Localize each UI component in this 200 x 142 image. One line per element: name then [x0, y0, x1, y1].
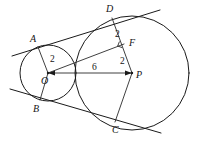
- point-label-o: O: [41, 76, 48, 86]
- vertex-dot-o: [47, 72, 49, 74]
- segment-oa: [38, 47, 48, 73]
- geometry-figure: A B C D F O P 2 2 2 6: [0, 0, 200, 142]
- point-label-p: P: [136, 70, 142, 80]
- point-label-a: A: [30, 34, 36, 44]
- figure-canvas: [0, 0, 200, 142]
- point-label-f: F: [129, 38, 135, 48]
- point-label-d: D: [106, 4, 113, 14]
- vertex-dot-p: [131, 72, 133, 74]
- measure-label-df: 2: [115, 30, 120, 40]
- segment-of: [48, 44, 124, 73]
- measure-label-fp: 2: [120, 57, 125, 67]
- point-label-b: B: [33, 104, 39, 114]
- segment-pc: [115, 73, 132, 122]
- point-label-c: C: [112, 125, 119, 135]
- measure-label-op: 6: [92, 63, 97, 73]
- measure-label-oa: 2: [50, 55, 55, 65]
